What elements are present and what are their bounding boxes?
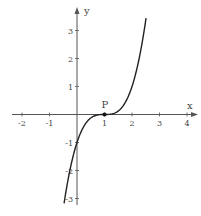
x-tick-label: -1 xyxy=(46,119,54,128)
point-p-label: P xyxy=(102,99,109,110)
y-tick-label: 3 xyxy=(68,27,73,36)
x-tick-label: 2 xyxy=(129,119,134,128)
y-tick-label: -1 xyxy=(65,139,73,148)
plot-svg: -2-11234-3-2-1123 P x y xyxy=(0,0,201,216)
x-tick-label: 4 xyxy=(184,119,189,128)
point-p-marker xyxy=(103,113,107,117)
y-tick-label: 2 xyxy=(68,55,73,64)
function-plot: -2-11234-3-2-1123 P x y xyxy=(0,0,201,216)
x-axis-label: x xyxy=(187,100,193,111)
x-tick-label: 1 xyxy=(102,119,107,128)
y-axis-label: y xyxy=(83,5,90,16)
y-axis-arrow-icon xyxy=(75,7,80,14)
x-axis-arrow-icon xyxy=(191,112,198,117)
y-tick-label: 1 xyxy=(68,83,73,92)
x-tick-label: 3 xyxy=(157,119,162,128)
function-curve xyxy=(64,18,146,203)
y-tick-label: -3 xyxy=(65,195,73,204)
x-tick-label: -2 xyxy=(18,119,26,128)
